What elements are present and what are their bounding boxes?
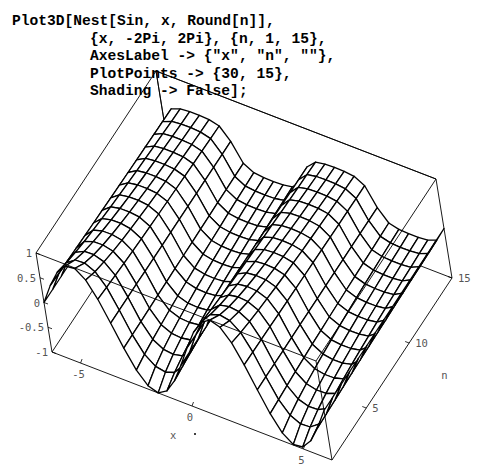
n-tick-label: 15 (458, 272, 471, 284)
x-tick-label: -5 (72, 368, 85, 380)
z-tick-label: 1 (26, 247, 32, 259)
z-tick-label: -0.5 (19, 321, 44, 333)
z-tick-label: 0.5 (17, 272, 36, 284)
x-tick-label: 5 (298, 454, 304, 466)
n-tick-label: 5 (372, 402, 378, 414)
z-tick-label: -1 (35, 346, 48, 358)
z-tick-label: 0 (34, 297, 40, 309)
surface-mesh (44, 109, 444, 447)
x-axis-label: x (170, 429, 176, 441)
surface-plot-3d: 10.50-0.5-1-50551015xn (0, 0, 477, 473)
n-tick-label: 10 (415, 337, 428, 349)
x-tick-label: 0 (187, 411, 193, 423)
n-axis-label: n (441, 369, 447, 381)
